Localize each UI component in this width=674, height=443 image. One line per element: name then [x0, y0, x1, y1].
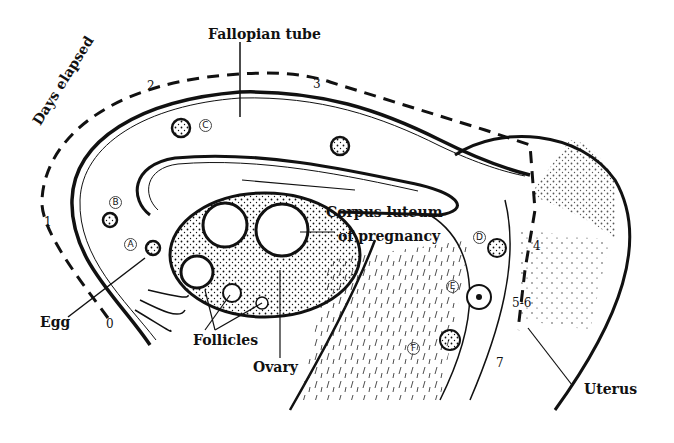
day-marker-0: 0: [106, 318, 114, 330]
day-marker-2: 2: [147, 80, 155, 92]
follicle-large-1: [203, 203, 247, 247]
stage-marker-A: A: [124, 238, 137, 251]
day-marker-5-6: 5-6: [512, 297, 531, 309]
follicle-small-1: [223, 284, 241, 302]
stage-marker-D: D: [473, 231, 486, 244]
day-marker-7: 7: [496, 357, 504, 369]
label-egg: Egg: [40, 315, 70, 329]
label-corpus-luteum: Corpus luteum: [326, 205, 442, 219]
egg-F: [440, 330, 460, 350]
label-corpus-luteum-2: of pregnancy: [338, 229, 440, 243]
stage-marker-B: B: [109, 196, 122, 209]
stage-marker-F: F: [407, 342, 420, 355]
reproductive-diagram: [0, 0, 674, 443]
label-follicles: Follicles: [193, 333, 258, 347]
stage-marker-C: C: [199, 119, 212, 132]
egg-C: [172, 119, 190, 137]
label-fallopian-tube: Fallopian tube: [208, 27, 321, 41]
label-ovary: Ovary: [253, 360, 298, 374]
fimbriae: [135, 290, 188, 331]
day-marker-3: 3: [313, 78, 321, 90]
day-marker-4: 4: [533, 240, 541, 252]
egg-B: [103, 213, 117, 227]
follicle-large-2: [256, 204, 308, 256]
egg-A: [146, 241, 160, 255]
label-uterus: Uterus: [584, 382, 637, 396]
follicle-ruptured: [181, 256, 213, 288]
egg-D: [488, 239, 506, 257]
day-marker-1: 1: [44, 216, 52, 228]
stage-marker-E: E: [446, 280, 459, 293]
